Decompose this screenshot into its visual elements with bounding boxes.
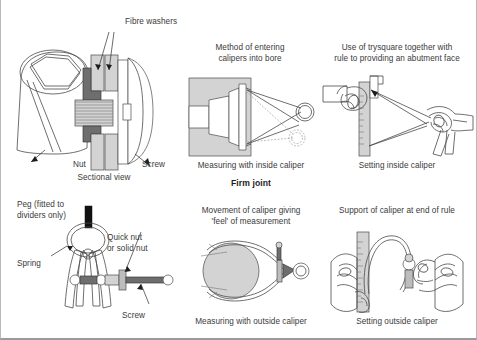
figure-divider-assembly: [57, 210, 183, 316]
title-entering-calipers: Method of entering calipers into bore: [187, 42, 313, 64]
title-caliper-feel: Movement of caliper giving 'feel' of mea…: [187, 205, 315, 227]
figure-sectional-view: [5, 38, 181, 163]
section-heading-firm-joint: Firm joint: [187, 178, 315, 188]
caption-setting-inside-caliper: Setting inside caliper: [319, 160, 475, 171]
illustration-page: Fibre washers Nut Screw Sectional view M…: [0, 0, 477, 340]
figure-setting-outside-caliper: [331, 228, 463, 316]
callout-spring: Spring: [17, 258, 59, 269]
figure-setting-inside-caliper: [323, 72, 473, 156]
callout-nut: Nut: [73, 159, 103, 170]
sectional-assembly-drawing: [75, 55, 153, 170]
caption-measuring-outside-caliper: Measuring with outside caliper: [187, 316, 315, 327]
peg-bar: [85, 206, 92, 228]
quick-nut-block: [119, 270, 126, 290]
caption-setting-outside-caliper: Setting outside caliper: [319, 316, 475, 327]
title-caliper-support: Support of caliper at end of rule: [319, 205, 475, 216]
title-trysquare-abutment: Use of trysquare together with rule to p…: [319, 42, 475, 64]
caption-sectional-view: Sectional view: [59, 172, 149, 183]
callout-fibre-washers: Fibre washers: [125, 16, 205, 27]
figure-inside-caliper-bore: [189, 78, 317, 156]
caption-measuring-inside-caliper: Measuring with inside caliper: [187, 160, 315, 171]
figure-outside-caliper-feel: [197, 238, 313, 304]
callout-screw: Screw: [142, 159, 182, 170]
